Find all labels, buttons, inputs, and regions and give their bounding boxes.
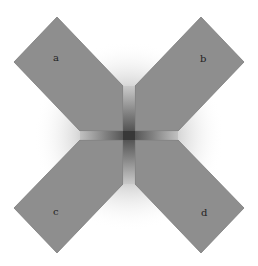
label-a: a xyxy=(53,52,59,63)
label-c: c xyxy=(53,206,59,217)
center-junction xyxy=(123,131,135,140)
label-b: b xyxy=(200,53,206,64)
electrode-diagram: a b c d xyxy=(0,0,258,266)
label-d: d xyxy=(201,207,208,218)
